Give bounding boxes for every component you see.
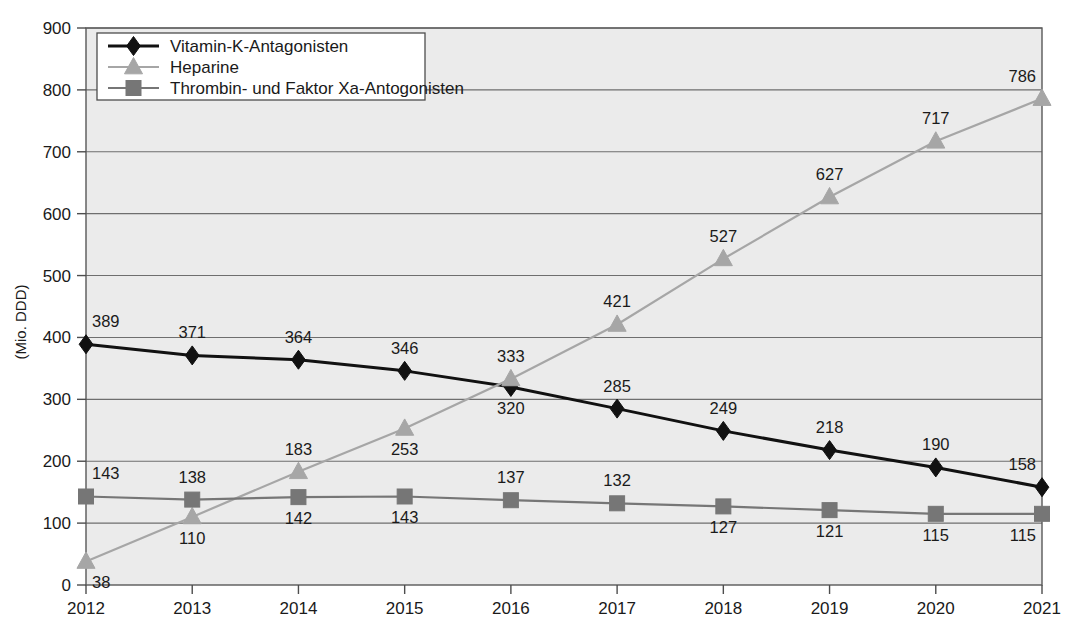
data-label: 143 — [391, 508, 419, 526]
y-tick-label: 300 — [43, 390, 71, 409]
data-point-marker — [503, 493, 518, 508]
x-tick-label: 2014 — [280, 599, 318, 618]
y-tick-label: 900 — [43, 19, 71, 38]
chart-legend[interactable]: Vitamin-K-AntagonistenHeparineThrombin- … — [97, 33, 464, 100]
data-label: 218 — [816, 418, 844, 436]
data-label: 421 — [603, 292, 631, 310]
line-chart: 0100200300400500600700800900 20122013201… — [0, 0, 1085, 637]
data-label: 249 — [710, 399, 738, 417]
data-point-marker — [822, 503, 837, 518]
y-tick-label: 700 — [43, 143, 71, 162]
data-label: 333 — [497, 347, 525, 365]
data-label: 364 — [285, 328, 313, 346]
chart-container: 0100200300400500600700800900 20122013201… — [0, 0, 1085, 637]
data-point-marker — [79, 489, 94, 504]
x-tick-label: 2013 — [173, 599, 211, 618]
data-label: 38 — [92, 573, 110, 591]
data-label: 143 — [92, 464, 120, 482]
data-label: 183 — [285, 440, 313, 458]
y-axis-ticks: 0100200300400500600700800900 — [43, 19, 86, 595]
y-tick-label: 800 — [43, 81, 71, 100]
data-label: 158 — [1008, 455, 1036, 473]
data-label: 285 — [603, 377, 631, 395]
data-label: 253 — [391, 440, 419, 458]
x-tick-label: 2016 — [492, 599, 530, 618]
data-label: 786 — [1008, 67, 1036, 85]
data-label: 389 — [92, 312, 120, 330]
x-tick-label: 2021 — [1023, 599, 1061, 618]
data-label: 371 — [178, 323, 206, 341]
x-tick-label: 2018 — [704, 599, 742, 618]
data-label: 110 — [179, 529, 205, 547]
legend-label: Vitamin-K-Antagonisten — [170, 37, 348, 56]
y-tick-label: 0 — [62, 576, 71, 595]
x-tick-label: 2019 — [811, 599, 849, 618]
data-label: 115 — [923, 526, 949, 544]
data-label: 138 — [178, 468, 206, 486]
y-tick-label: 600 — [43, 205, 71, 224]
data-label: 320 — [497, 399, 525, 417]
data-label: 190 — [922, 435, 950, 453]
data-label: 121 — [816, 522, 844, 540]
data-point-marker — [1035, 506, 1050, 521]
data-label: 527 — [710, 227, 738, 245]
x-tick-label: 2012 — [67, 599, 105, 618]
data-label: 346 — [391, 339, 419, 357]
data-label: 717 — [922, 109, 950, 127]
x-tick-label: 2015 — [386, 599, 424, 618]
data-point-marker — [185, 492, 200, 507]
data-point-marker — [928, 506, 943, 521]
y-axis-title: (Mio. DDD) — [12, 285, 29, 360]
x-axis-ticks: 2012201320142015201620172018201920202021 — [67, 585, 1061, 618]
x-tick-label: 2020 — [917, 599, 955, 618]
data-label: 115 — [1010, 526, 1036, 544]
data-point-marker — [716, 499, 731, 514]
legend-label: Thrombin- und Faktor Xa-Antogonisten — [170, 79, 464, 98]
data-label: 127 — [710, 518, 738, 536]
data-point-marker — [126, 81, 141, 96]
legend-label: Heparine — [170, 58, 239, 77]
y-tick-label: 400 — [43, 328, 71, 347]
y-tick-label: 100 — [43, 514, 71, 533]
data-label: 137 — [497, 468, 525, 486]
y-axis-title-text: (Mio. DDD) — [12, 285, 29, 360]
data-label: 142 — [285, 509, 313, 527]
y-tick-label: 500 — [43, 267, 71, 286]
data-point-marker — [610, 496, 625, 511]
data-point-marker — [291, 490, 306, 505]
data-label: 627 — [816, 165, 844, 183]
data-label: 132 — [603, 471, 631, 489]
y-tick-label: 200 — [43, 452, 71, 471]
data-point-marker — [397, 489, 412, 504]
x-tick-label: 2017 — [598, 599, 636, 618]
